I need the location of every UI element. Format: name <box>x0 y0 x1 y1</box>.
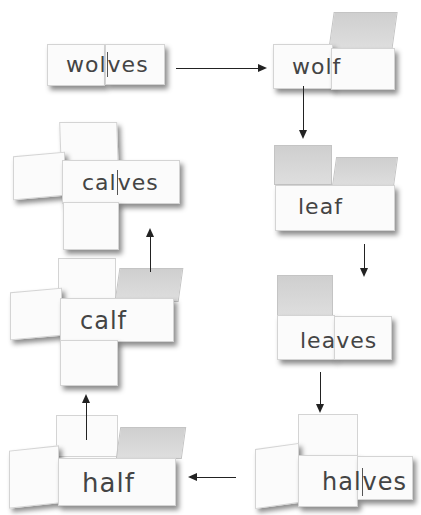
card-flap-top <box>58 258 116 300</box>
word-ending: ves <box>107 52 149 77</box>
card-word: leaves <box>300 330 377 352</box>
card-flap-bottom <box>60 340 118 386</box>
card-flap-left <box>10 288 62 341</box>
card-flap-right <box>115 268 184 302</box>
card-flap-left <box>255 443 299 509</box>
card-word: wolf <box>292 56 341 78</box>
card-flap-left <box>277 275 333 317</box>
card-flap-left <box>9 445 59 508</box>
card-flap-left <box>274 145 332 185</box>
card-flap-bottom <box>63 202 119 250</box>
card-word: halves <box>322 470 407 494</box>
card-word: calves <box>82 172 159 194</box>
card-word: leaf <box>298 196 343 218</box>
card-word: half <box>82 470 135 496</box>
card-flap-left <box>13 152 65 201</box>
card-flap-raised <box>328 12 397 50</box>
card-word: wolves <box>66 54 149 76</box>
card-flap-right <box>332 157 398 187</box>
word-stem: wol <box>66 52 107 77</box>
card-flap-top <box>298 414 358 458</box>
card-flap-right <box>116 427 186 459</box>
card-word: calf <box>80 309 127 333</box>
card-flap-top <box>56 415 118 457</box>
